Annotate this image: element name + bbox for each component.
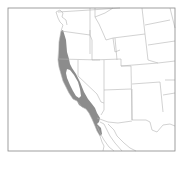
map-background [0, 0, 188, 175]
range-map [0, 0, 188, 175]
